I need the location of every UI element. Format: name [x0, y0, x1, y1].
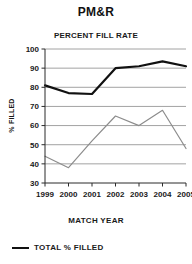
y-tick-label: 80	[30, 83, 39, 92]
data-series	[45, 61, 186, 167]
series-line-primary	[45, 61, 186, 94]
x-axis-title: MATCH YEAR	[0, 216, 192, 225]
x-tick-label: 2004	[154, 190, 172, 199]
chart-title: PM&R	[0, 5, 192, 19]
x-tick-label: 2001	[83, 190, 101, 199]
y-tick-label: 50	[30, 141, 39, 150]
y-tick-label: 30	[30, 179, 39, 188]
y-tick-label: 90	[30, 64, 39, 73]
x-tick-label: 2000	[60, 190, 78, 199]
y-tick-label: 70	[30, 102, 39, 111]
legend-entry-label: TOTAL % FILLED	[34, 243, 104, 252]
x-tick-label: 1999	[36, 190, 54, 199]
y-tick-label: 40	[30, 160, 39, 169]
legend-line-swatch	[12, 247, 29, 249]
x-tick-label: 2002	[107, 190, 125, 199]
y-axis-tick-labels: 30405060708090100	[26, 45, 40, 188]
y-tick-label: 60	[30, 121, 39, 130]
gridlines	[45, 49, 186, 164]
line-chart-plot: 30405060708090100 1999200020012002200320…	[0, 42, 192, 207]
chart-legend: TOTAL % FILLED	[12, 243, 104, 252]
chart-card: PM&R PERCENT FILL RATE % FILLED 30405060…	[0, 0, 192, 264]
y-axis-tick-marks	[42, 49, 46, 183]
x-axis-tick-marks	[45, 183, 186, 187]
x-tick-label: 2005	[177, 190, 192, 199]
x-tick-label: 2003	[130, 190, 148, 199]
x-axis-tick-labels: 1999200020012002200320042005	[36, 190, 192, 199]
chart-subtitle: PERCENT FILL RATE	[0, 31, 192, 40]
series-line-secondary	[45, 110, 186, 167]
y-tick-label: 100	[26, 45, 40, 54]
